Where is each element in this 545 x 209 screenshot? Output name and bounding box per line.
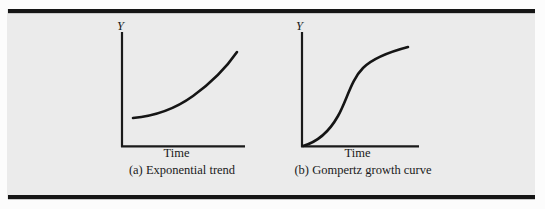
bottom-rule-highlight bbox=[8, 199, 535, 200]
gompertz-growth-curve bbox=[303, 47, 408, 146]
exponential-trend-curve bbox=[133, 52, 237, 118]
panel-exponential-trend: Y Time (a) Exponential trend bbox=[95, 18, 270, 190]
x-axis-label: Time bbox=[270, 147, 445, 160]
exponential-trend-plot bbox=[95, 18, 270, 163]
panel-caption: (b) Gompertz growth curve bbox=[248, 164, 478, 177]
top-rule-highlight bbox=[8, 13, 535, 14]
x-axis-label: Time bbox=[89, 147, 264, 160]
gompertz-growth-plot bbox=[275, 18, 450, 163]
y-axis-label: Y bbox=[117, 20, 124, 33]
figure-container: Y Time (a) Exponential trend Y Time (b) … bbox=[0, 0, 545, 209]
panel-gompertz-growth-curve: Y Time (b) Gompertz growth curve bbox=[275, 18, 450, 190]
y-axis-label: Y bbox=[296, 20, 303, 33]
